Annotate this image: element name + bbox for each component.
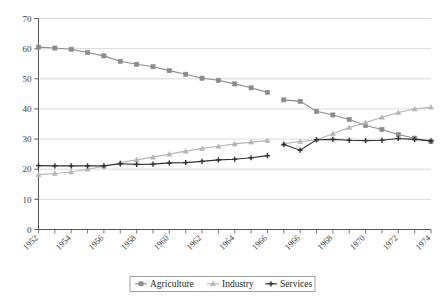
marker-square [298, 99, 302, 103]
marker-cross [69, 163, 74, 168]
series-line-agriculture-seg1 [284, 100, 431, 142]
data-series-group [36, 45, 434, 177]
x-tick-label-3: 1958 [119, 233, 138, 252]
marker-cross [52, 163, 57, 168]
y-axis-tick-labels: 010203040506070 [23, 14, 33, 235]
marker-square [135, 62, 139, 66]
x-tick-label-6: 1964 [217, 232, 237, 252]
y-tick-label-70: 70 [23, 14, 33, 24]
chart-canvas: 010203040506070 195219541956195819601962… [0, 0, 444, 300]
marker-cross [150, 161, 155, 166]
legend-label-industry: Industry [222, 279, 254, 289]
y-tick-label-20: 20 [23, 164, 33, 174]
y-tick-label-10: 10 [23, 195, 33, 205]
marker-square [282, 98, 286, 102]
marker-cross [85, 163, 90, 168]
marker-cross [36, 163, 41, 168]
y-tick-label-60: 60 [23, 44, 33, 54]
line-chart: 010203040506070 195219541956195819601962… [0, 0, 444, 300]
marker-square [200, 76, 204, 80]
marker-square [347, 117, 351, 121]
x-tick-label-1: 1954 [54, 232, 74, 252]
x-tick-label-7: 1966 [250, 233, 269, 252]
marker-cross [281, 142, 286, 147]
marker-cross [183, 160, 188, 165]
marker-square [184, 72, 188, 76]
marker-square [216, 78, 220, 82]
marker-square [85, 50, 89, 54]
x-tick-label-12: 1974 [413, 232, 433, 252]
series-services [36, 136, 434, 169]
y-tick-label-50: 50 [23, 74, 33, 84]
marker-square [233, 82, 237, 86]
gridlines-group [39, 19, 432, 200]
marker-square [69, 47, 73, 51]
x-axis-tick-labels: 1952195419561958196019621964196619661968… [21, 232, 433, 252]
y-tick-label-30: 30 [23, 134, 33, 144]
y-tick-label-40: 40 [23, 104, 33, 114]
axes-group [35, 19, 432, 230]
x-tick-label-9: 1968 [315, 233, 334, 252]
series-agriculture [36, 45, 433, 144]
marker-square [249, 86, 253, 90]
marker-square [167, 69, 171, 73]
marker-cross [167, 160, 172, 165]
marker-square [265, 90, 269, 94]
marker-cross [330, 137, 335, 142]
chart-legend: AgricultureIndustryServices [130, 277, 315, 292]
marker-square [102, 54, 106, 58]
x-tick-label-4: 1960 [152, 233, 171, 252]
x-tick-label-11: 1972 [381, 233, 400, 252]
marker-square [139, 282, 143, 286]
marker-cross [232, 157, 237, 162]
marker-square [151, 65, 155, 69]
marker-square [331, 113, 335, 117]
marker-square [314, 109, 318, 113]
series-line-services-seg1 [284, 138, 431, 150]
marker-cross [265, 153, 270, 158]
x-tick-label-10: 1970 [348, 233, 367, 252]
marker-cross [249, 155, 254, 160]
marker-cross [347, 138, 352, 143]
marker-square [380, 127, 384, 131]
marker-cross [134, 162, 139, 167]
marker-square [118, 59, 122, 63]
marker-cross [216, 157, 221, 162]
marker-square [36, 45, 40, 49]
series-line-industry-seg1 [284, 107, 431, 143]
legend-label-services: Services [280, 279, 312, 289]
x-tick-label-8: 1966 [282, 233, 301, 252]
marker-cross [379, 138, 384, 143]
marker-square [53, 46, 57, 50]
x-tick-label-0: 1952 [21, 233, 40, 252]
x-tick-label-2: 1956 [86, 233, 105, 252]
legend-label-agriculture: Agriculture [150, 279, 194, 289]
marker-cross [199, 159, 204, 164]
x-tick-label-5: 1962 [184, 233, 203, 252]
